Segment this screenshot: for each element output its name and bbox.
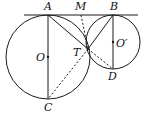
point-label-a: A — [43, 0, 52, 13]
point-label-c: C — [44, 101, 53, 114]
point-label-t: T — [73, 46, 82, 59]
point-label-o-prime: O′ — [116, 37, 128, 50]
geometry-diagram: AMBOCO′TD — [0, 0, 145, 122]
center-point-o-prime — [112, 41, 114, 43]
segment-BT — [88, 15, 113, 49]
segment-TC — [48, 49, 88, 99]
point-label-m: M — [74, 0, 87, 13]
point-label-d: D — [107, 70, 117, 83]
point-label-b: B — [109, 0, 118, 13]
center-point-o — [47, 56, 49, 58]
point-label-o: O — [36, 51, 45, 64]
